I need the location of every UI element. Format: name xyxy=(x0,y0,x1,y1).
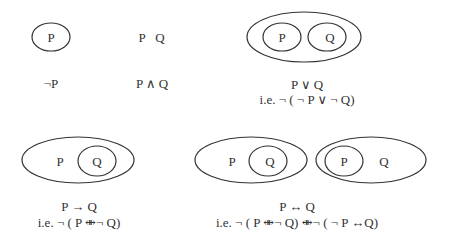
set-p-label: P xyxy=(47,30,54,45)
set-p-label: P xyxy=(228,154,235,169)
set-p-label: P xyxy=(278,30,285,45)
formula-or: P ∨ Q xyxy=(291,77,324,92)
panel-implies: P Q P → Q i.e. ¬ ( P ⇼¬ Q) xyxy=(22,137,134,230)
universe-ellipse xyxy=(247,12,361,62)
set-q-label: Q xyxy=(379,154,389,169)
formula-and: P ∧ Q xyxy=(136,76,169,91)
panel-iff: P Q P Q P ↔ Q i.e. ¬ ( P ⇼¬ Q) ⇼¬ ( ¬ P … xyxy=(195,137,426,230)
formula-not-p: ¬P xyxy=(44,76,59,91)
set-q-label: Q xyxy=(155,30,165,45)
set-p-ellipse xyxy=(195,137,307,183)
equivalence-iff: i.e. ¬ ( P ⇼¬ Q) ⇼¬ ( ¬ P ↔Q) xyxy=(216,215,378,230)
panel-or: P Q P ∨ Q i.e. ¬ ( ¬ P ∨ ¬ Q) xyxy=(247,12,361,107)
equivalence-or: i.e. ¬ ( ¬ P ∨ ¬ Q) xyxy=(260,92,355,107)
set-p-label: P xyxy=(138,30,145,45)
set-q-label: Q xyxy=(325,30,335,45)
logic-venn-diagram: P ¬P P Q P ∧ Q P Q P ∨ Q i.e. ¬ ( ¬ P ∨ … xyxy=(0,0,451,243)
panel-not-p: P ¬P xyxy=(32,23,70,91)
set-p-label: P xyxy=(56,154,63,169)
panel-and: P Q P ∧ Q xyxy=(136,30,169,91)
set-q-label: Q xyxy=(92,154,102,169)
set-q-label: Q xyxy=(265,154,275,169)
formula-iff: P ↔ Q xyxy=(279,199,315,214)
equivalence-implies: i.e. ¬ ( P ⇼¬ Q) xyxy=(38,215,120,230)
set-q-ellipse xyxy=(316,137,426,183)
formula-implies: P → Q xyxy=(61,199,97,214)
set-p-label: P xyxy=(340,154,347,169)
